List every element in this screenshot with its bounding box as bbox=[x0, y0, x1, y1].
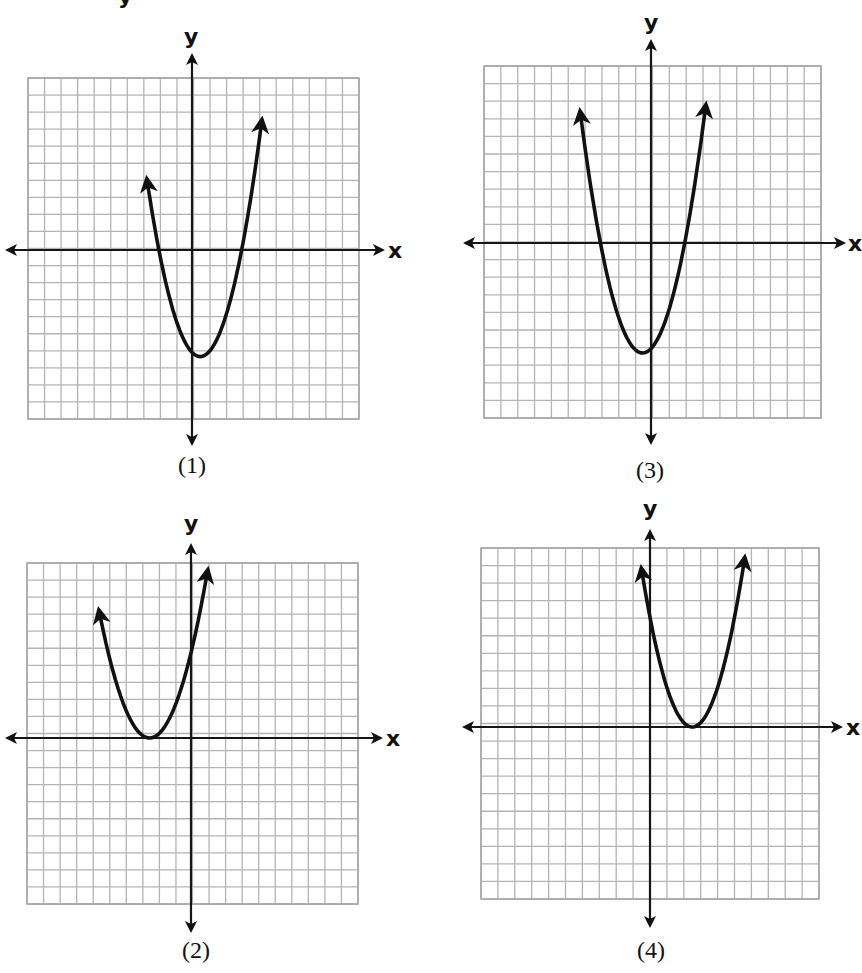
x-axis-label: x bbox=[846, 715, 860, 740]
grid bbox=[28, 78, 359, 419]
graph-2: xy(2) bbox=[8, 511, 400, 963]
graph-choices-canvas: y xy(1)xy(3)xy(2)xy(4) bbox=[0, 0, 862, 973]
graph-3: xy(3) bbox=[466, 10, 862, 483]
y-axis-label: y bbox=[184, 511, 198, 536]
parabola-curve bbox=[580, 106, 706, 354]
choice-label: (2) bbox=[182, 937, 210, 963]
y-axis-label: y bbox=[643, 496, 657, 521]
y-axis-label: y bbox=[644, 10, 658, 35]
grid bbox=[27, 563, 358, 904]
x-axis-label: x bbox=[386, 726, 400, 751]
parabola-curve bbox=[147, 121, 262, 357]
choice-label: (4) bbox=[637, 937, 665, 963]
x-axis-label: x bbox=[388, 238, 402, 263]
y-axis-label: y bbox=[184, 24, 198, 49]
graphs-layer: xy(1)xy(3)xy(2)xy(4) bbox=[8, 10, 862, 963]
graph-1: xy(1) bbox=[8, 24, 402, 478]
x-axis-label: x bbox=[848, 231, 862, 256]
choice-label: (3) bbox=[636, 457, 664, 483]
clipped-text-fragment: y bbox=[118, 0, 132, 9]
graph-4: xy(4) bbox=[465, 496, 860, 963]
choice-label: (1) bbox=[178, 452, 206, 478]
